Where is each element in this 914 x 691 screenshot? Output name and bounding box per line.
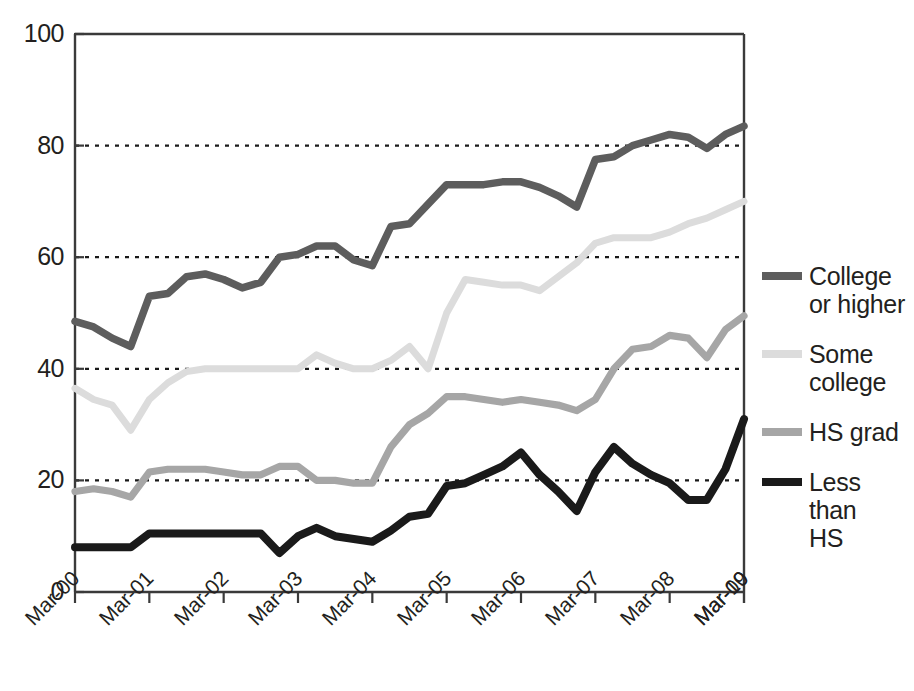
legend-color-swatch xyxy=(762,350,802,358)
legend-label-line2: HS xyxy=(809,524,912,552)
legend-label-line2: or higher xyxy=(809,290,905,318)
y-tick-label: 20 xyxy=(2,467,64,492)
chart-legend: Collegeor higherSomecollegeHS gradLess t… xyxy=(762,262,912,574)
legend-label: Less thanHS xyxy=(809,468,912,552)
legend-label-line1: College xyxy=(809,262,905,290)
y-tick-label: 100 xyxy=(2,21,64,46)
series-lines-group xyxy=(75,126,744,553)
legend-label: HS grad xyxy=(809,418,899,446)
legend-label: Somecollege xyxy=(809,340,886,396)
legend-color-swatch xyxy=(762,478,802,486)
legend-item[interactable]: Collegeor higher xyxy=(762,262,912,318)
y-tick-label: 40 xyxy=(2,356,64,381)
legend-item[interactable]: Somecollege xyxy=(762,340,912,396)
legend-color-swatch xyxy=(762,272,802,280)
axis-frame xyxy=(75,34,744,592)
legend-label-line1: Less than xyxy=(809,468,912,524)
legend-label-line1: Some xyxy=(809,340,886,368)
y-tick-label: 60 xyxy=(2,244,64,269)
legend-item[interactable]: Less thanHS xyxy=(762,468,912,552)
legend-color-swatch xyxy=(762,428,802,436)
legend-item[interactable]: HS grad xyxy=(762,418,912,446)
legend-label-line1: HS grad xyxy=(809,418,899,446)
chart-container: 100806040200 Mar-00Mar-01Mar-02Mar-03Mar… xyxy=(0,0,914,691)
legend-label: Collegeor higher xyxy=(809,262,905,318)
legend-label-line2: college xyxy=(809,368,886,396)
y-tick-label: 80 xyxy=(2,133,64,158)
